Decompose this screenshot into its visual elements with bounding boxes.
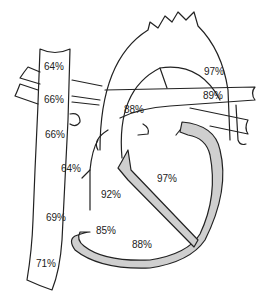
label-right-atrium-upper: 64% <box>61 164 81 174</box>
label-septal-region: 92% <box>101 190 121 200</box>
heart-saturation-diagram: 64% 66% 66% 64% 69% 71% 97% 89% 88% 97% … <box>0 0 276 303</box>
label-ivc-junction: 69% <box>46 213 66 223</box>
label-svc-upper: 64% <box>44 62 64 72</box>
label-svc-mid: 66% <box>44 95 64 105</box>
label-right-ventricle: 88% <box>132 240 152 250</box>
label-left-ventricle: 97% <box>157 174 177 184</box>
label-pulmonary-vein: 89% <box>203 91 223 101</box>
label-aorta: 97% <box>204 67 224 77</box>
label-left-atrium: 88% <box>124 105 144 115</box>
label-svc-lower: 66% <box>45 130 65 140</box>
label-right-ventricle-inflow: 85% <box>96 226 116 236</box>
label-ivc: 71% <box>36 259 56 269</box>
